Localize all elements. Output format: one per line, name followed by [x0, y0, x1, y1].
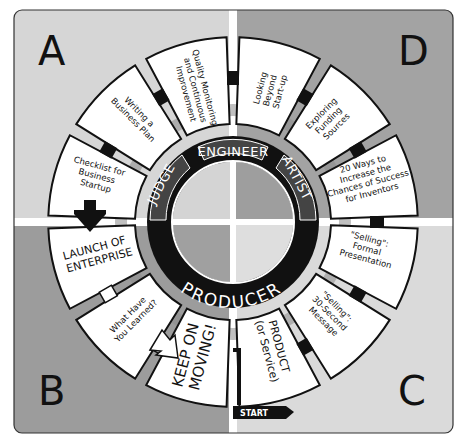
start-label: START [240, 409, 269, 418]
quadrant-letter-d: D [398, 28, 429, 74]
ring-label-engineer: ENGINEER [197, 144, 268, 159]
quadrant-letter-a: A [38, 28, 66, 74]
business-cycle-wheel: A D B C [0, 0, 461, 447]
quadrant-letter-c: C [398, 368, 426, 414]
quadrant-letter-b: B [38, 368, 65, 414]
